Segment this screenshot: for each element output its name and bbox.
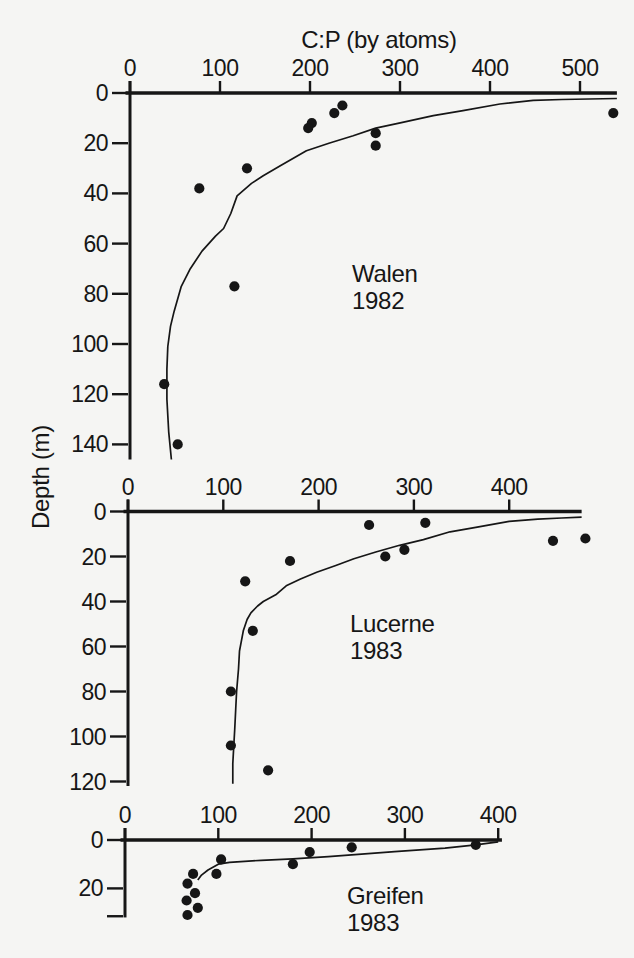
- panel-greifen: 0100200300400020: [78, 802, 516, 920]
- data-point: [285, 556, 295, 566]
- data-point: [194, 183, 204, 193]
- x-tick-label: 500: [562, 55, 599, 81]
- panel-walen: 0100200300400500020406080100120140: [71, 55, 618, 460]
- x-tick-label: 100: [205, 474, 242, 500]
- data-point: [305, 847, 315, 857]
- x-tick-label: 0: [124, 55, 136, 81]
- y-axis-title: Depth (m): [27, 425, 55, 529]
- y-tick-label: 120: [69, 769, 106, 795]
- data-point: [193, 903, 203, 913]
- x-tick-label: 300: [386, 802, 423, 828]
- x-axis-title: C:P (by atoms): [301, 26, 456, 54]
- data-point: [173, 439, 183, 449]
- data-point: [380, 551, 390, 561]
- data-point: [288, 859, 298, 869]
- cp-depth-profiles-figure: 0100200300400500020406080100120140010020…: [0, 0, 634, 958]
- panel-label-greifen: Greifen 1983: [347, 882, 424, 936]
- y-tick-label: 60: [83, 231, 108, 257]
- data-point: [471, 840, 481, 850]
- data-point: [226, 686, 236, 696]
- data-point: [608, 108, 618, 118]
- y-tick-label: 100: [69, 724, 106, 750]
- x-tick-label: 400: [480, 802, 517, 828]
- x-tick-label: 200: [293, 802, 330, 828]
- data-point: [263, 765, 273, 775]
- y-tick-label: 20: [81, 544, 106, 570]
- x-tick-label: 100: [202, 55, 239, 81]
- data-point: [580, 533, 590, 543]
- x-tick-label: 300: [382, 55, 419, 81]
- y-tick-label: 140: [71, 431, 108, 457]
- y-tick-label: 60: [81, 634, 106, 660]
- y-tick-label: 80: [81, 679, 106, 705]
- data-point: [182, 895, 192, 905]
- panel-label-walen: Walen 1982: [352, 260, 418, 314]
- data-point: [399, 545, 409, 555]
- data-point: [329, 108, 339, 118]
- x-tick-label: 300: [395, 474, 432, 500]
- x-tick-label: 0: [122, 474, 134, 500]
- data-point: [182, 879, 192, 889]
- data-point: [240, 576, 250, 586]
- data-point: [248, 626, 258, 636]
- y-tick-label: 0: [94, 499, 106, 525]
- y-tick-label: 0: [91, 827, 103, 853]
- panel-lucerne: 0100200300400020406080100120: [69, 474, 590, 795]
- x-tick-label: 400: [472, 55, 509, 81]
- data-point: [337, 100, 347, 110]
- data-point: [420, 518, 430, 528]
- y-tick-label: 20: [78, 875, 103, 901]
- x-tick-label: 0: [119, 802, 131, 828]
- cp-depth-profiles-chart: 0100200300400500020406080100120140010020…: [0, 0, 634, 958]
- lake-name: Walen: [352, 260, 418, 287]
- data-point: [188, 869, 198, 879]
- data-point: [211, 869, 221, 879]
- data-point: [371, 128, 381, 138]
- lake-year: 1983: [350, 637, 435, 664]
- data-point: [548, 536, 558, 546]
- y-tick-label: 40: [81, 589, 106, 615]
- lake-name: Lucerne: [350, 610, 435, 637]
- data-point: [190, 888, 200, 898]
- data-point: [303, 123, 313, 133]
- y-tick-label: 40: [83, 180, 108, 206]
- data-point: [226, 740, 236, 750]
- x-tick-label: 200: [300, 474, 337, 500]
- data-point: [242, 163, 252, 173]
- y-tick-label: 80: [83, 281, 108, 307]
- data-point: [364, 520, 374, 530]
- lake-year: 1983: [347, 909, 424, 936]
- data-point: [182, 910, 192, 920]
- data-point: [229, 281, 239, 291]
- y-tick-label: 0: [96, 80, 108, 106]
- y-tick-label: 100: [71, 331, 108, 357]
- lake-name: Greifen: [347, 882, 424, 909]
- panel-label-lucerne: Lucerne 1983: [350, 610, 435, 664]
- x-tick-label: 200: [292, 55, 329, 81]
- data-point: [159, 379, 169, 389]
- y-tick-label: 120: [71, 381, 108, 407]
- x-tick-label: 100: [200, 802, 237, 828]
- x-tick-label: 400: [491, 474, 528, 500]
- y-tick-label: 20: [83, 130, 108, 156]
- lake-year: 1982: [352, 287, 418, 314]
- data-point: [216, 854, 226, 864]
- data-point: [347, 842, 357, 852]
- data-point: [371, 141, 381, 151]
